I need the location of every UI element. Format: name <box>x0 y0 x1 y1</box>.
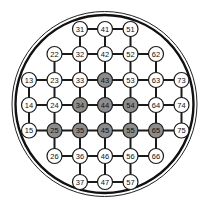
hole-41[interactable]: 41 <box>98 22 113 37</box>
hole-label: 42 <box>101 50 109 59</box>
hole-31[interactable]: 31 <box>73 22 88 37</box>
hole-42[interactable]: 42 <box>98 47 113 62</box>
hole-label: 45 <box>101 126 109 135</box>
hole-33[interactable]: 33 <box>73 73 88 88</box>
hole-label: 32 <box>76 50 84 59</box>
hole-label: 37 <box>76 178 84 187</box>
hole-23[interactable]: 23 <box>47 73 62 88</box>
hole-label: 13 <box>25 76 33 85</box>
hole-label: 23 <box>50 76 58 85</box>
hole-label: 54 <box>126 101 134 110</box>
hole-25[interactable]: 25 <box>47 123 62 138</box>
solitaire-board: 3141512232425262132333435363731424344454… <box>0 0 204 201</box>
hole-label: 41 <box>101 25 109 34</box>
hole-label: 73 <box>177 76 185 85</box>
hole-label: 15 <box>25 126 33 135</box>
hole-36[interactable]: 36 <box>73 149 88 164</box>
hole-label: 43 <box>101 76 109 85</box>
hole-label: 65 <box>152 126 160 135</box>
hole-51[interactable]: 51 <box>123 22 138 37</box>
hole-label: 36 <box>76 152 84 161</box>
hole-65[interactable]: 65 <box>149 123 164 138</box>
hole-55[interactable]: 55 <box>123 123 138 138</box>
hole-label: 75 <box>177 126 185 135</box>
hole-22[interactable]: 22 <box>47 47 62 62</box>
hole-label: 63 <box>152 76 160 85</box>
hole-75[interactable]: 75 <box>174 123 189 138</box>
hole-24[interactable]: 24 <box>47 98 62 113</box>
hole-53[interactable]: 53 <box>123 73 138 88</box>
hole-15[interactable]: 15 <box>22 123 37 138</box>
hole-74[interactable]: 74 <box>174 98 189 113</box>
hole-73[interactable]: 73 <box>174 73 189 88</box>
hole-26[interactable]: 26 <box>47 149 62 164</box>
hole-label: 56 <box>126 152 134 161</box>
hole-45[interactable]: 45 <box>98 123 113 138</box>
hole-54[interactable]: 54 <box>123 98 138 113</box>
hole-62[interactable]: 62 <box>149 47 164 62</box>
hole-35[interactable]: 35 <box>73 123 88 138</box>
hole-label: 24 <box>50 101 58 110</box>
hole-34[interactable]: 34 <box>73 98 88 113</box>
hole-52[interactable]: 52 <box>123 47 138 62</box>
hole-14[interactable]: 14 <box>22 98 37 113</box>
hole-13[interactable]: 13 <box>22 73 37 88</box>
hole-label: 22 <box>50 50 58 59</box>
hole-label: 62 <box>152 50 160 59</box>
hole-label: 55 <box>126 126 134 135</box>
hole-66[interactable]: 66 <box>149 149 164 164</box>
hole-label: 46 <box>101 152 109 161</box>
hole-label: 51 <box>126 25 134 34</box>
hole-43[interactable]: 43 <box>98 73 113 88</box>
hole-label: 52 <box>126 50 134 59</box>
hole-label: 57 <box>126 178 134 187</box>
hole-label: 44 <box>101 101 109 110</box>
hole-label: 74 <box>177 101 185 110</box>
hole-label: 66 <box>152 152 160 161</box>
hole-label: 14 <box>25 101 33 110</box>
hole-label: 34 <box>76 101 84 110</box>
hole-label: 64 <box>152 101 160 110</box>
hole-47[interactable]: 47 <box>98 175 113 190</box>
hole-57[interactable]: 57 <box>123 175 138 190</box>
hole-46[interactable]: 46 <box>98 149 113 164</box>
hole-label: 47 <box>101 178 109 187</box>
hole-label: 53 <box>126 76 134 85</box>
hole-44[interactable]: 44 <box>98 98 113 113</box>
hole-56[interactable]: 56 <box>123 149 138 164</box>
hole-64[interactable]: 64 <box>149 98 164 113</box>
hole-label: 25 <box>50 126 58 135</box>
hole-63[interactable]: 63 <box>149 73 164 88</box>
hole-32[interactable]: 32 <box>73 47 88 62</box>
hole-label: 26 <box>50 152 58 161</box>
hole-label: 31 <box>76 25 84 34</box>
hole-label: 35 <box>76 126 84 135</box>
hole-37[interactable]: 37 <box>73 175 88 190</box>
hole-label: 33 <box>76 76 84 85</box>
